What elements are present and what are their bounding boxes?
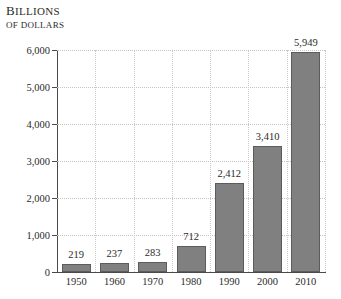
bar-value-label: 237 bbox=[107, 248, 123, 259]
bar bbox=[62, 264, 91, 272]
bar bbox=[291, 52, 320, 272]
x-gridline bbox=[134, 50, 135, 272]
y-axis-tick bbox=[52, 124, 57, 125]
bar bbox=[253, 146, 282, 272]
y-axis-label: 6,000 bbox=[26, 45, 50, 56]
bar bbox=[215, 183, 244, 272]
bar bbox=[177, 246, 206, 272]
x-axis-label: 1950 bbox=[66, 276, 87, 287]
y-axis-tick bbox=[52, 87, 57, 88]
y-gridline bbox=[57, 198, 325, 199]
x-axis-label: 1990 bbox=[219, 276, 240, 287]
x-gridline bbox=[210, 50, 211, 272]
y-gridline bbox=[57, 161, 325, 162]
axis-title-line-1: Billions bbox=[6, 4, 64, 18]
x-axis-line bbox=[57, 272, 326, 273]
y-gridline bbox=[57, 124, 325, 125]
bar-chart: Billions of dollars 01,0002,0003,0004,00… bbox=[0, 0, 341, 299]
y-axis-tick bbox=[52, 50, 57, 51]
y-axis-label: 5,000 bbox=[26, 82, 50, 93]
y-axis-label: 1,000 bbox=[26, 230, 50, 241]
bar bbox=[138, 262, 167, 272]
y-gridline bbox=[57, 87, 325, 88]
bar-value-label: 3,410 bbox=[256, 131, 280, 142]
x-gridline bbox=[95, 50, 96, 272]
x-axis-label: 1960 bbox=[104, 276, 125, 287]
bar-value-label: 283 bbox=[145, 247, 161, 258]
bar-value-label: 712 bbox=[183, 231, 199, 242]
y-axis-tick bbox=[52, 272, 57, 273]
x-axis-label: 2010 bbox=[295, 276, 316, 287]
y-gridline bbox=[57, 50, 325, 51]
chart-axis-title: Billions of dollars bbox=[6, 4, 64, 32]
bar-value-label: 2,412 bbox=[217, 168, 241, 179]
bar-value-label: 5,949 bbox=[294, 37, 318, 48]
x-gridline bbox=[248, 50, 249, 272]
x-gridline bbox=[325, 50, 326, 272]
x-axis-label: 1970 bbox=[142, 276, 163, 287]
y-axis-label: 3,000 bbox=[26, 156, 50, 167]
y-axis-tick bbox=[52, 161, 57, 162]
bar bbox=[100, 263, 129, 272]
y-axis-label: 4,000 bbox=[26, 119, 50, 130]
x-gridline bbox=[287, 50, 288, 272]
x-gridline bbox=[172, 50, 173, 272]
bar-value-label: 219 bbox=[68, 249, 84, 260]
axis-title-line-2: of dollars bbox=[6, 19, 64, 32]
y-axis-label: 2,000 bbox=[26, 193, 50, 204]
y-axis-label: 0 bbox=[45, 267, 50, 278]
x-axis-label: 1980 bbox=[181, 276, 202, 287]
y-axis-tick bbox=[52, 198, 57, 199]
x-axis-label: 2000 bbox=[257, 276, 278, 287]
y-axis-tick bbox=[52, 235, 57, 236]
